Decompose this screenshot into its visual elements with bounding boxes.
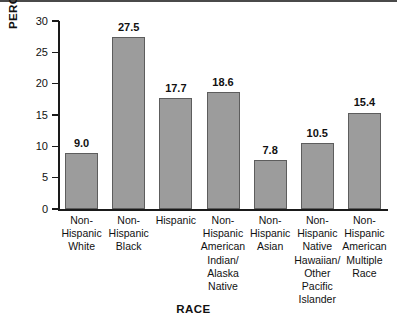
x-axis-line bbox=[58, 209, 388, 211]
bar-value-label: 15.4 bbox=[334, 97, 395, 108]
plot-area: 9.027.517.718.67.810.515.4 bbox=[58, 21, 388, 209]
page-top-rule bbox=[0, 0, 397, 2]
bar-value-label: 18.6 bbox=[193, 77, 254, 88]
bar[interactable] bbox=[207, 92, 240, 209]
bar-group: 27.5 bbox=[112, 21, 145, 209]
bar-group: 15.4 bbox=[348, 21, 381, 209]
y-axis-tick-label: 15 bbox=[8, 110, 48, 121]
y-axis-tick-label: 20 bbox=[8, 78, 48, 89]
y-axis-tick-label: 10 bbox=[8, 141, 48, 152]
y-axis-tick-label: 30 bbox=[8, 16, 48, 27]
bar-value-label: 27.5 bbox=[98, 22, 159, 33]
y-axis-tick-label: 5 bbox=[8, 172, 48, 183]
bar[interactable] bbox=[254, 160, 287, 209]
bar[interactable] bbox=[65, 153, 98, 209]
bar-chart-figure: PERCENT OF WOMEN 051015202530 9.027.517.… bbox=[0, 0, 397, 325]
bar-group: 17.7 bbox=[159, 21, 192, 209]
bar-group: 18.6 bbox=[207, 21, 240, 209]
bar-value-label: 7.8 bbox=[240, 145, 301, 156]
bar[interactable] bbox=[112, 37, 145, 209]
bar[interactable] bbox=[348, 113, 381, 210]
bar[interactable] bbox=[159, 98, 192, 209]
bar-value-label: 10.5 bbox=[287, 128, 348, 139]
bar-group: 7.8 bbox=[254, 21, 287, 209]
y-axis-tick-label: 25 bbox=[8, 47, 48, 58]
y-axis-tick-label: 0 bbox=[8, 204, 48, 215]
bar-group: 10.5 bbox=[301, 21, 334, 209]
x-axis-title: RACE bbox=[0, 303, 387, 315]
bar-group: 9.0 bbox=[65, 21, 98, 209]
bar-value-label: 9.0 bbox=[51, 138, 112, 149]
x-axis-category-label: Non- Hispanic American Multiple Race bbox=[335, 214, 393, 280]
bar[interactable] bbox=[301, 143, 334, 209]
